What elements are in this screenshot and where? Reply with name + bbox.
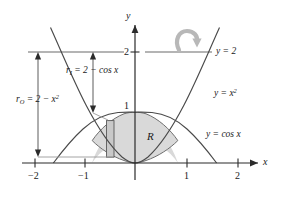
outer-radius-exponent: 2 [56,93,59,100]
x-tick-label-pos2: 2 [235,171,240,181]
line-y2-label: y = 2 [216,47,236,57]
region-label-r: R [147,131,154,142]
calculus-washer-diagram: x y −2 −1 1 2 2 1 y = 2 y = x2 y = cos x… [0,0,281,197]
parabola-label: y = x2 [214,89,237,99]
cosine-label: y = cos x [206,130,241,140]
outer-radius-expression: = 2 − x [24,94,55,104]
x-axis-label: x [263,157,267,167]
outer-radius-arrowhead-top-icon [35,52,41,60]
y-tick-label-1: 1 [124,101,129,111]
inner-radius-arrowhead-bottom-icon [90,106,96,114]
y-axis-arrowhead-icon [132,25,139,33]
x-axis-arrowhead-icon [250,160,258,167]
outer-radius-label: rO = 2 − x2 [16,95,59,105]
rotation-arrow-icon [177,31,202,50]
outer-radius-subscript: O [20,98,25,105]
inner-radius-leader-line [93,113,108,120]
inner-radius-expression: = 2 − cos x [72,65,118,75]
inner-radius-subscript: I [70,69,72,76]
x-tick-label-neg2: −2 [28,171,39,181]
x-tick-label-neg1: −1 [78,171,89,181]
inner-radius-label: rI = 2 − cos x [66,66,118,76]
inner-radius-arrowhead-top-icon [90,52,96,60]
parabola-label-exponent: 2 [234,87,237,94]
outer-radius-arrowhead-bottom-icon [35,150,41,158]
representative-strip [107,121,115,158]
parabola-label-text: y = x [214,88,234,98]
y-axis-label: y [126,11,130,21]
x-tick-label-pos1: 1 [184,171,189,181]
y-tick-label-2: 2 [124,47,129,57]
